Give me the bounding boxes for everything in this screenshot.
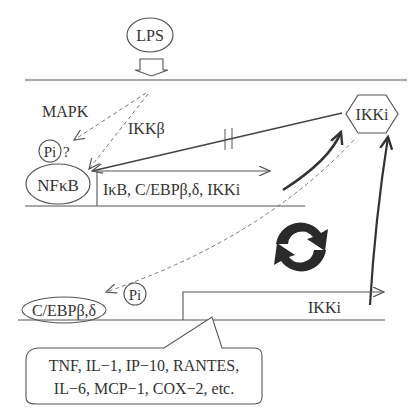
signaling-diagram: LPS MAPK IKKβ Pi ? NFκB IκB, C/EBPβ,δ, I… xyxy=(0,0,414,418)
cebp-node: C/EBPβ,δ Pi xyxy=(22,283,146,323)
nfkb-node: NFκB xyxy=(26,164,90,204)
ikki-node: IKKi xyxy=(346,95,398,133)
nfkb-targets-label: IκB, C/EBPβ,δ, IKKi xyxy=(103,181,241,199)
ikkb-label: IKKβ xyxy=(128,120,165,138)
cebp-pi-label: Pi xyxy=(129,287,142,303)
targets-to-ikki-arrow xyxy=(283,132,341,190)
mapk-label: MAPK xyxy=(42,103,89,120)
nfkb-label: NFκB xyxy=(37,176,79,195)
lps-block-arrow-icon xyxy=(135,59,168,76)
lps-label: LPS xyxy=(136,27,164,44)
ikki-gene-to-node-arrow xyxy=(370,137,388,305)
question-mark: ? xyxy=(63,144,70,160)
feedback-cycle-icon xyxy=(274,223,328,272)
callout-line-2: IL−6, MCP−1, COX−2, etc. xyxy=(54,380,234,397)
callout-line-1: TNF, IL−1, IP−10, RANTES, xyxy=(49,357,240,374)
lps-node: LPS xyxy=(127,18,173,52)
ikki-gene-promoter-arrow xyxy=(183,292,384,320)
target-genes-callout: TNF, IL−1, IP−10, RANTES, IL−6, MCP−1, C… xyxy=(26,317,262,404)
ikki-node-label: IKKi xyxy=(356,106,389,123)
pi-question-node: Pi ? xyxy=(39,140,70,162)
pi-label: Pi xyxy=(44,144,57,160)
cebp-label: C/EBPβ,δ xyxy=(32,302,96,320)
ikki-gene-label: IKKi xyxy=(308,299,341,316)
